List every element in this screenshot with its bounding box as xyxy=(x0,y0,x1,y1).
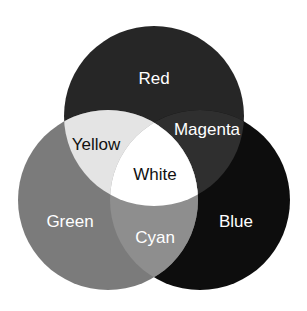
label-cyan: Cyan xyxy=(135,228,175,247)
label-blue: Blue xyxy=(219,212,253,231)
label-green: Green xyxy=(46,212,93,231)
additive-color-venn-diagram: Red Magenta Yellow White Green Cyan Blue xyxy=(0,0,307,311)
label-magenta: Magenta xyxy=(174,120,241,139)
label-white: White xyxy=(133,165,176,184)
label-yellow: Yellow xyxy=(72,135,121,154)
label-red: Red xyxy=(138,69,169,88)
